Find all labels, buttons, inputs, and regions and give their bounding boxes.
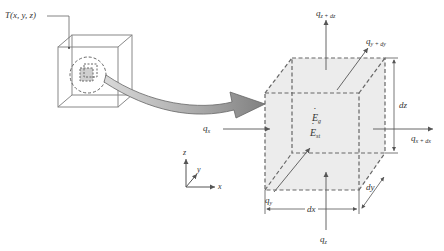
label-dz: dz <box>399 101 407 110</box>
label-q-z: qz <box>320 235 327 245</box>
q-z-sub: z <box>325 239 327 245</box>
label-e-st: Est <box>310 128 320 139</box>
q-y-dy-sub: y + dy <box>371 41 386 47</box>
axis-label-x: x <box>218 183 222 191</box>
q-z-dz-sub: z + dz <box>321 13 336 19</box>
label-q-y: qy <box>265 196 272 206</box>
element-highlight <box>70 57 106 93</box>
control-volume-diagram: T(x, y, z) z y x qz + dz qy + dy qx qx +… <box>0 0 444 251</box>
q-x-dx-sub: x + dx <box>416 138 431 144</box>
e-st-sub: st <box>316 133 320 139</box>
e-st-base: E <box>310 127 316 138</box>
label-q-z-dz: qz + dz <box>316 9 335 19</box>
q-x-sub: x <box>208 128 211 134</box>
label-dx: dx <box>305 205 318 214</box>
q-y-sub: y <box>270 200 273 206</box>
zoom-arrow <box>104 75 265 118</box>
control-volume <box>265 58 385 190</box>
axis-label-z: z <box>183 149 186 157</box>
axis-label-y: y <box>197 166 201 174</box>
label-q-x: qx <box>203 124 210 134</box>
e-g-sub: g <box>318 118 321 124</box>
label-dy: dy <box>366 183 375 192</box>
label-q-x-dx: qx + dx <box>411 134 431 144</box>
label-q-y-dy: qy + dy <box>366 37 386 47</box>
point-leader-line <box>47 16 69 48</box>
point-label: T(x, y, z) <box>5 11 36 20</box>
